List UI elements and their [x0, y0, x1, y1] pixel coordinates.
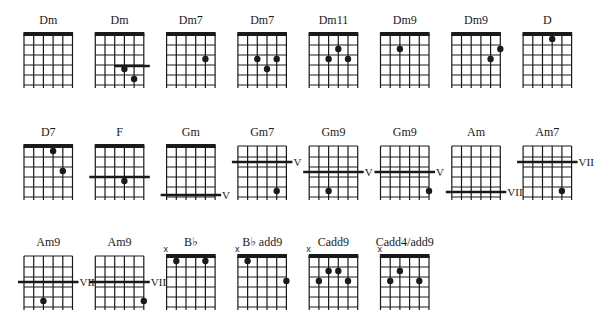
finger-dot [559, 188, 565, 194]
fret-position-label: VII [507, 186, 523, 198]
chord-diagram: Am9VII [18, 235, 95, 310]
finger-dot [141, 298, 147, 304]
chord-diagram: F [89, 125, 150, 200]
finger-dot [325, 268, 331, 274]
chord-diagram: Dm7 [237, 13, 287, 88]
chord-diagram: Dm7 [166, 13, 216, 88]
chord-diagram: AmVII [446, 125, 523, 200]
finger-dot [426, 188, 432, 194]
nut [95, 144, 145, 148]
finger-dot [50, 148, 56, 154]
chord-diagram: Dm [95, 13, 150, 88]
chord-diagram: Am9VII [89, 235, 166, 310]
chord-name: Cadd9 [318, 235, 349, 249]
finger-dot [316, 278, 322, 284]
finger-dot [416, 278, 422, 284]
chord-name: Am7 [535, 125, 559, 139]
nut [309, 32, 359, 36]
chord-diagram: Am7VII [517, 125, 594, 200]
finger-dot [487, 56, 493, 62]
finger-dot [325, 188, 331, 194]
fret-position-label: V [436, 166, 444, 178]
chord-name: Am9 [108, 235, 132, 249]
chord-name: Gm9 [393, 125, 417, 139]
finger-dot [397, 268, 403, 274]
nut [95, 32, 145, 36]
finger-dot [397, 46, 403, 52]
chord-name: D7 [41, 125, 56, 139]
nut [309, 254, 359, 258]
nut [523, 32, 573, 36]
chord-name: Dm9 [393, 13, 417, 27]
finger-dot [121, 66, 127, 72]
finger-dot [549, 36, 555, 42]
chord-diagram: Gm9V [303, 125, 373, 200]
chord-name: Dm [111, 13, 130, 27]
finger-dot [345, 278, 351, 284]
nut [166, 254, 216, 258]
muted-string-marker: x [164, 244, 169, 254]
finger-dot [335, 268, 341, 274]
fret-position-label: V [222, 189, 230, 201]
finger-dot [497, 46, 503, 52]
chord-name: D [543, 13, 552, 27]
chord-diagram: Gm7V [232, 125, 302, 200]
nut [380, 254, 430, 258]
chord-diagram: D [523, 13, 573, 88]
finger-dot [274, 56, 280, 62]
chord-diagram: Dm11 [309, 13, 359, 88]
fret-position-label: VII [579, 156, 595, 168]
fret-position-label: V [293, 156, 301, 168]
nut [23, 144, 73, 148]
chord-name: Dm [39, 13, 58, 27]
finger-dot [264, 66, 270, 72]
finger-dot [40, 298, 46, 304]
muted-string-marker: x [306, 244, 311, 254]
nut [166, 144, 216, 148]
nut [380, 32, 430, 36]
finger-dot [244, 258, 250, 264]
finger-dot [345, 56, 351, 62]
chord-name: Dm7 [179, 13, 203, 27]
finger-dot [325, 56, 331, 62]
chord-name: Dm7 [250, 13, 274, 27]
muted-string-marker: x [378, 244, 383, 254]
finger-dot [254, 56, 260, 62]
finger-dot [121, 178, 127, 184]
chord-name: Am9 [36, 235, 60, 249]
chord-diagram: D7 [23, 125, 73, 200]
chord-name: Cadd4/add9 [376, 235, 434, 249]
chord-name: B♭ add9 [242, 235, 282, 249]
nut [237, 254, 287, 258]
finger-dot [60, 168, 66, 174]
muted-string-marker: x [235, 244, 240, 254]
chord-diagram: Cadd4/add9x [376, 235, 434, 310]
chord-diagram: B♭x [164, 235, 216, 310]
nut [451, 32, 501, 36]
finger-dot [131, 76, 137, 82]
chord-name: Gm7 [250, 125, 274, 139]
chord-name: B♭ [184, 235, 198, 249]
chord-name: Dm9 [464, 13, 488, 27]
chord-chart: DmDmDm7Dm7Dm11Dm9Dm9DD7FGmVGm7VGm9VGm9VA… [0, 0, 612, 329]
finger-dot [387, 278, 393, 284]
chord-diagram: B♭ add9x [235, 235, 290, 310]
finger-dot [202, 56, 208, 62]
chord-name: Gm9 [321, 125, 345, 139]
finger-dot [283, 278, 289, 284]
chord-name: Am [467, 125, 486, 139]
chord-diagram: Dm9 [380, 13, 430, 88]
finger-dot [274, 188, 280, 194]
finger-dot [202, 258, 208, 264]
chord-diagram: Gm9V [375, 125, 445, 200]
chord-diagram: Dm [23, 13, 73, 88]
finger-dot [173, 258, 179, 264]
chord-diagram: Dm9 [451, 13, 503, 88]
fret-position-label: V [365, 166, 373, 178]
chord-name: Dm11 [319, 13, 349, 27]
nut [23, 32, 73, 36]
chord-name: Gm [182, 125, 201, 139]
nut [237, 32, 287, 36]
nut [166, 32, 216, 36]
chord-name: F [116, 125, 123, 139]
